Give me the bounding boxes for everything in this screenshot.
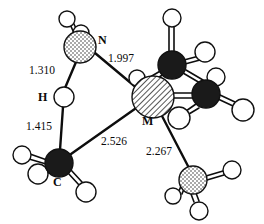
molecular-structure-svg: N H M C 1.310 1.997 1.415 2.526 2.267 [0, 0, 264, 224]
distance-c-m: 2.526 [101, 135, 127, 147]
label-nitrogen: N [98, 33, 107, 47]
bond-n-hbridge [65, 62, 76, 88]
bond-c1-h3 [29, 154, 47, 164]
atom-hydrogen-n2c [190, 202, 208, 220]
distance-m-n2: 2.267 [146, 145, 172, 157]
label-metal: M [142, 114, 153, 128]
distance-h-c: 1.415 [26, 120, 52, 132]
molecule-figure-canvas: N H M C 1.310 1.997 1.415 2.526 2.267 [0, 0, 264, 224]
distance-n-h-bridge: 1.310 [29, 64, 55, 76]
atom-metal-m [132, 76, 174, 118]
bond-n2-h12 [206, 171, 224, 180]
atom-hydrogen-n1a [59, 11, 75, 27]
atom-nitrogen-n1 [64, 31, 96, 63]
atom-hydrogen-c3c [168, 107, 190, 129]
atom-hydrogen-c1a [13, 146, 31, 164]
label-carbon: C [53, 175, 62, 189]
label-hydrogen: H [38, 90, 48, 104]
bond-hbridge-c [60, 107, 63, 150]
atom-hydrogen-bridge [54, 87, 74, 107]
atom-hydrogen-c2b [195, 42, 215, 62]
atom-carbon-c3 [192, 80, 220, 108]
bond-m-c3 [174, 93, 193, 98]
atom-hydrogen-c3b [232, 99, 254, 121]
atom-group [13, 9, 254, 220]
atom-hydrogen-c1c [76, 182, 96, 202]
atom-hydrogen-c2a [163, 9, 181, 27]
bond-c3-h10 [218, 95, 235, 106]
atom-carbon-c2 [158, 51, 186, 79]
atom-carbon-c1 [45, 149, 73, 177]
bond-c2-h6 [169, 27, 174, 52]
atom-nitrogen-n2 [179, 166, 207, 194]
atom-hydrogen-n2a [223, 161, 241, 179]
distance-n-m: 1.997 [108, 52, 134, 64]
atom-hydrogen-n2b [165, 188, 181, 204]
